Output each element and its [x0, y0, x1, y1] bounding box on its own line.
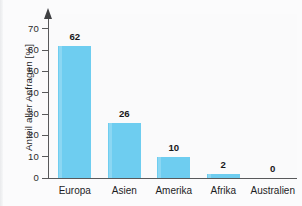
bar-value-label-amerika: 10 [149, 143, 199, 153]
y-axis-tick-label-0: 0 [34, 173, 39, 183]
bar-highlight [109, 123, 112, 178]
y-axis-tick-30 [42, 114, 48, 115]
bar-highlight [59, 46, 62, 178]
y-axis-tick-10 [42, 156, 48, 157]
bar-europa [58, 46, 91, 178]
bar-amerika [157, 157, 190, 178]
bar-value-label-asien: 26 [100, 109, 150, 119]
y-axis-tick-label-60: 60 [28, 45, 39, 55]
bar-value-label-afrika: 2 [199, 160, 249, 170]
x-axis-line [48, 178, 297, 179]
bar-value-label-europa: 62 [50, 32, 100, 42]
y-axis-tick-label-50: 50 [28, 66, 39, 76]
y-axis-tick-0 [42, 178, 48, 179]
y-axis-line [48, 18, 49, 178]
bar-highlight [208, 174, 211, 178]
y-axis-tick-label-30: 30 [28, 109, 39, 119]
y-axis-tick-70 [42, 28, 48, 29]
bar-value-label-australien: 0 [248, 164, 298, 174]
x-axis-label-australien: Australien [242, 186, 302, 196]
y-axis-tick-20 [42, 135, 48, 136]
y-axis-tick-label-70: 70 [28, 24, 39, 34]
bar-highlight [158, 157, 161, 178]
bar-chart-figure: Anteil aller Anfragen [%] 01020304050607… [0, 0, 302, 206]
bar-asien [108, 123, 141, 178]
y-axis-tick-label-20: 20 [28, 130, 39, 140]
y-axis-tick-50 [42, 71, 48, 72]
page-edge-decoration [0, 0, 3, 206]
y-axis-tick-label-10: 10 [28, 152, 39, 162]
bar-afrika [207, 174, 240, 178]
y-axis-tick-label-40: 40 [28, 88, 39, 98]
y-axis-tick-40 [42, 92, 48, 93]
y-axis-arrow-icon [44, 8, 52, 19]
y-axis-tick-60 [42, 50, 48, 51]
